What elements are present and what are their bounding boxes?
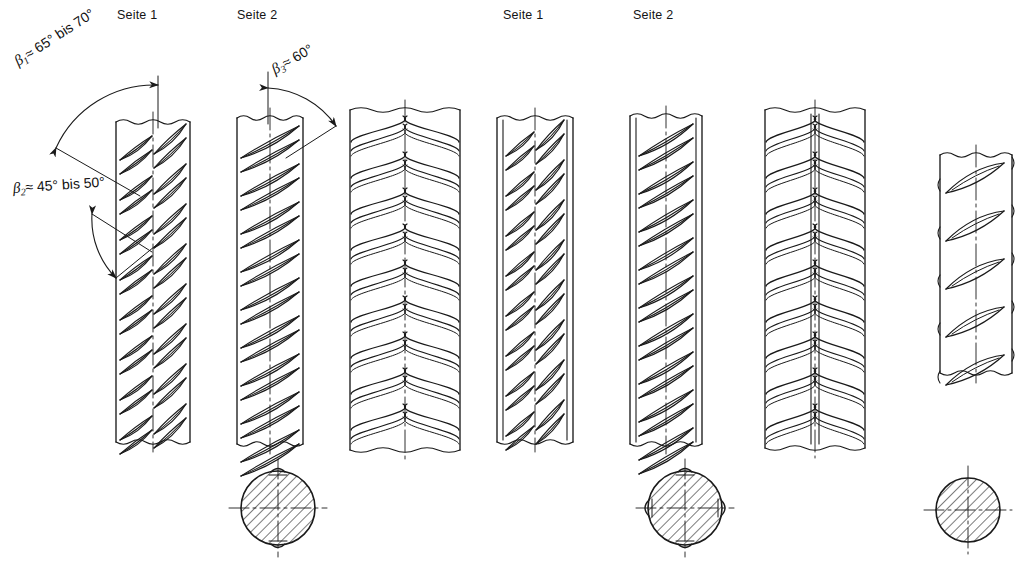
side-label-g1-seite-2: Seite 2 — [237, 8, 277, 22]
beta-2-arc — [92, 214, 116, 278]
beta-1-arc — [56, 85, 158, 148]
side-label-g2-seite-2: Seite 2 — [633, 8, 673, 22]
beta-2-leader-2 — [92, 214, 152, 252]
drawing-canvas — [0, 0, 1026, 576]
side-label-g1-seite-1: Seite 1 — [117, 8, 157, 22]
side-label-g2-seite-1: Seite 1 — [503, 8, 543, 22]
beta-3-arc — [268, 88, 336, 126]
technical-drawing-figure: Seite 1Seite 2Seite 1Seite 2β1≈ 65° bis … — [0, 0, 1026, 576]
